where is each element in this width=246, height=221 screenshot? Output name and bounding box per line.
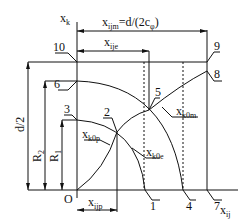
point-3: 3 bbox=[64, 102, 70, 116]
diagram: xk xij O xijm=d/(2cφ) xije xijp d/2 R2 R… bbox=[0, 0, 246, 221]
point-2: 2 bbox=[104, 105, 110, 119]
origin-label: O bbox=[64, 192, 73, 206]
label-xk0m: xk0m bbox=[176, 104, 197, 120]
point-9: 9 bbox=[214, 39, 220, 53]
point-10: 10 bbox=[53, 40, 65, 54]
label-xk0p: xk0p bbox=[82, 127, 100, 143]
point-4: 4 bbox=[186, 199, 192, 213]
label-xijm: xijm=d/(2cφ) bbox=[102, 15, 159, 31]
point-7: 7 bbox=[214, 199, 220, 213]
label-r2: R2 bbox=[30, 150, 46, 162]
leader-10 bbox=[55, 53, 77, 62]
point-8: 8 bbox=[214, 67, 220, 81]
label-r1: R1 bbox=[47, 150, 63, 162]
point-5: 5 bbox=[155, 85, 161, 99]
axis-label-xij: xij bbox=[220, 203, 230, 219]
diagram-canvas: xk xij O xijm=d/(2cφ) xije xijp d/2 R2 R… bbox=[0, 0, 246, 221]
label-xije: xije bbox=[104, 35, 118, 51]
label-xk0e: xk0e bbox=[146, 145, 164, 161]
label-xijp: xijp bbox=[88, 195, 102, 211]
leader-6 bbox=[58, 81, 77, 90]
point-6: 6 bbox=[54, 77, 60, 91]
axis-label-xk: xk bbox=[60, 11, 70, 27]
label-d2: d/2 bbox=[13, 117, 27, 132]
point-1: 1 bbox=[150, 199, 156, 213]
